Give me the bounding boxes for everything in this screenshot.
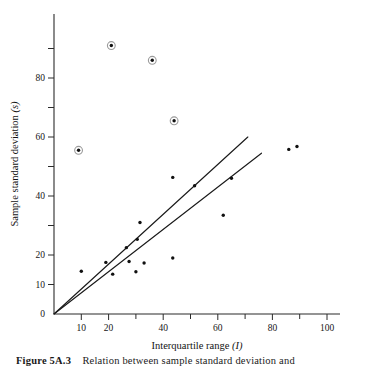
data-point <box>142 261 145 264</box>
data-point <box>193 184 196 187</box>
x-axis-tick-labels: 1020406080100 <box>77 323 335 333</box>
figure-container: 1020406080100 01020406080 Interquartile … <box>0 0 367 369</box>
data-point-circled <box>172 119 175 122</box>
data-point <box>138 221 141 224</box>
data-point <box>287 148 290 151</box>
data-point <box>111 272 114 275</box>
regression-lines <box>54 137 261 314</box>
data-point <box>104 261 107 264</box>
data-point <box>134 270 137 273</box>
y-axis-ticks <box>48 49 54 285</box>
y-tick-label: 20 <box>36 250 46 260</box>
x-tick-label: 80 <box>268 323 278 333</box>
figure-caption: Figure 5A.3 Relation between sample stan… <box>16 355 356 366</box>
data-point-circled <box>110 44 113 47</box>
x-axis-ticks <box>81 314 327 320</box>
y-axis-tick-labels: 01020406080 <box>36 73 46 319</box>
data-point <box>171 256 174 259</box>
data-point-circled <box>151 59 154 62</box>
y-tick-label: 10 <box>36 280 46 290</box>
data-point <box>171 176 174 179</box>
scatter-plot: 1020406080100 01020406080 Interquartile … <box>0 0 367 369</box>
x-tick-label: 60 <box>213 323 223 333</box>
y-tick-label: 0 <box>40 309 45 319</box>
x-tick-label: 10 <box>77 323 87 333</box>
caption-label: Figure 5A.3 <box>16 355 71 366</box>
data-point-circled <box>77 149 80 152</box>
data-points <box>75 42 299 276</box>
upper-fit-line <box>54 137 248 314</box>
data-point <box>80 270 83 273</box>
data-point <box>230 177 233 180</box>
y-tick-label: 60 <box>36 132 46 142</box>
y-axis-title: Sample standard deviation (s) <box>9 101 21 227</box>
y-tick-label: 40 <box>36 191 46 201</box>
x-tick-label: 40 <box>158 323 168 333</box>
data-point <box>127 260 130 263</box>
data-point <box>125 246 128 249</box>
data-point <box>136 238 139 241</box>
y-tick-label: 80 <box>36 73 46 83</box>
data-point <box>222 213 225 216</box>
data-point <box>295 145 298 148</box>
caption-text: Relation between sample standard deviati… <box>82 355 294 366</box>
x-tick-label: 100 <box>320 323 335 333</box>
x-axis-title: Interquartile range (I) <box>152 340 243 352</box>
x-tick-label: 20 <box>104 323 114 333</box>
